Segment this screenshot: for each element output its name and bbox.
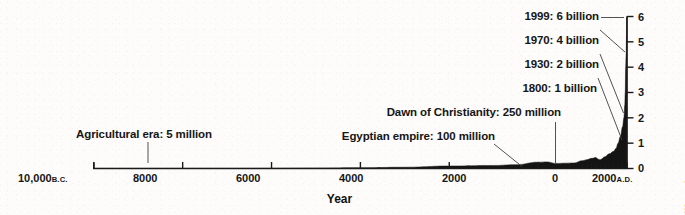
y-axis-ticks <box>627 17 634 169</box>
annotation-1999: 1999: 6 billion <box>524 10 599 22</box>
x-tick-label-2000ad: 2000A.D. <box>592 172 632 184</box>
leader-1970 <box>600 30 625 52</box>
annotation-agricultural-era: Agricultural era: 5 million <box>76 128 212 140</box>
population-growth-figure: 10,000B.C. 8000 6000 4000 2000 0 2000A.D… <box>0 0 685 215</box>
y-tick-label-0: 0 <box>638 162 644 174</box>
x-tick-label-2000bc: 2000 <box>442 172 466 184</box>
annotation-egyptian-empire: Egyptian empire: 100 million <box>342 130 495 142</box>
x-tick-era-ad: A.D. <box>616 175 632 184</box>
x-tick-era-bc: B.C. <box>52 175 68 184</box>
y-tick-label-2: 2 <box>638 112 644 124</box>
x-tick-label-8000: 8000 <box>133 172 157 184</box>
leader-egyptian <box>494 144 522 167</box>
y-tick-label-6: 6 <box>638 11 644 23</box>
x-tick-value-2000: 2000 <box>592 172 616 184</box>
y-tick-label-3: 3 <box>638 86 644 98</box>
annotation-dawn-of-christianity: Dawn of Christianity: 250 million <box>387 106 561 118</box>
x-tick-label-6000: 6000 <box>236 172 260 184</box>
x-tick-label-0: 0 <box>552 172 558 184</box>
annotation-1970: 1970: 4 billion <box>524 34 599 46</box>
x-tick-label-10000bc: 10,000B.C. <box>18 172 68 184</box>
y-tick-label-4: 4 <box>638 61 644 73</box>
x-tick-label-4000: 4000 <box>339 172 363 184</box>
x-tick-value-10000: 10,000 <box>18 172 52 184</box>
y-tick-label-5: 5 <box>638 36 644 48</box>
x-axis-title: Year <box>0 192 685 206</box>
leader-1800 <box>598 78 622 140</box>
y-tick-label-1: 1 <box>638 137 644 149</box>
annotation-1930: 1930: 2 billion <box>524 58 599 70</box>
leader-1930 <box>600 54 624 113</box>
annotation-1800: 1800: 1 billion <box>522 82 597 94</box>
